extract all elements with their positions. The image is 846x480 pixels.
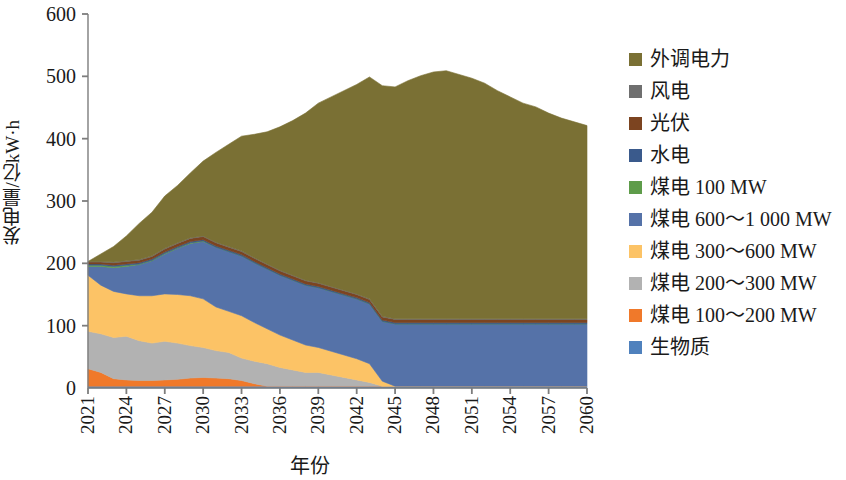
x-tick-label: 2051 xyxy=(462,396,481,434)
legend-item-label: 煤电 100～200 MW xyxy=(650,304,817,326)
chart-figure: 发电量/亿kW·h 0100200300400500600 2021202420… xyxy=(0,0,846,480)
legend-item[interactable]: 外调电力 xyxy=(629,43,844,75)
legend-item[interactable]: 煤电 100～200 MW xyxy=(629,299,844,331)
x-tick-label: 2024 xyxy=(116,396,135,434)
x-tick-label: 2048 xyxy=(423,396,442,434)
x-tick-label: 2027 xyxy=(155,396,174,434)
legend-item[interactable]: 煤电 100 MW xyxy=(629,171,844,203)
legend-swatch-icon xyxy=(629,53,642,66)
legend-swatch-icon xyxy=(629,277,642,290)
x-tick-label: 2060 xyxy=(577,396,596,434)
x-axis-title: 年份 xyxy=(290,455,330,477)
x-tick-label: 2042 xyxy=(347,396,366,434)
legend-item-label: 煤电 600～1 000 MW xyxy=(650,208,832,230)
legend-item[interactable]: 生物质 xyxy=(629,331,844,363)
chart-legend: 外调电力风电光伏水电煤电 100 MW煤电 600～1 000 MW煤电 300… xyxy=(629,43,844,363)
legend-swatch-icon xyxy=(629,85,642,98)
x-tick-label: 2036 xyxy=(270,396,289,434)
legend-item[interactable]: 煤电 300～600 MW xyxy=(629,235,844,267)
legend-item-label: 煤电 300～600 MW xyxy=(650,240,817,262)
x-tick-label: 2045 xyxy=(385,396,404,434)
legend-item-label: 光伏 xyxy=(650,112,690,134)
legend-swatch-icon xyxy=(629,213,642,226)
x-tick-label: 2039 xyxy=(308,396,327,434)
x-tick-label: 2054 xyxy=(500,396,519,434)
legend-item-label: 煤电 100 MW xyxy=(650,176,767,198)
legend-swatch-icon xyxy=(629,149,642,162)
legend-item[interactable]: 风电 xyxy=(629,75,844,107)
legend-item[interactable]: 煤电 600～1 000 MW xyxy=(629,203,844,235)
legend-item-label: 生物质 xyxy=(650,336,710,358)
x-tick-label: 2033 xyxy=(232,396,251,434)
legend-swatch-icon xyxy=(629,117,642,130)
x-tick-label: 2030 xyxy=(193,396,212,434)
legend-item-label: 外调电力 xyxy=(650,48,730,70)
x-tick-label: 2057 xyxy=(539,396,558,434)
legend-item-label: 水电 xyxy=(650,144,690,166)
legend-item[interactable]: 光伏 xyxy=(629,107,844,139)
x-tick-label: 2021 xyxy=(78,396,97,434)
legend-swatch-icon xyxy=(629,309,642,322)
legend-item-label: 风电 xyxy=(650,80,690,102)
legend-swatch-icon xyxy=(629,245,642,258)
legend-item[interactable]: 水电 xyxy=(629,139,844,171)
legend-item[interactable]: 煤电 200～300 MW xyxy=(629,267,844,299)
legend-swatch-icon xyxy=(629,181,642,194)
legend-swatch-icon xyxy=(629,341,642,354)
legend-item-label: 煤电 200～300 MW xyxy=(650,272,817,294)
